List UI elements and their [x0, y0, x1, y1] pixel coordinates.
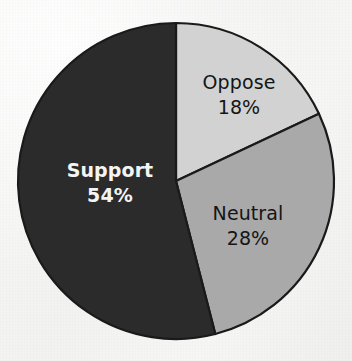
slice-label-oppose: Oppose: [203, 71, 276, 93]
slice-value-neutral: 28%: [227, 227, 270, 249]
pie-chart-svg: Oppose18%Neutral28%Support54%: [0, 0, 352, 361]
pie-slices-group: [18, 23, 334, 339]
slice-label-support: Support: [67, 159, 154, 181]
slice-label-neutral: Neutral: [213, 202, 284, 224]
pie-chart-figure: Oppose18%Neutral28%Support54%: [0, 0, 352, 361]
slice-value-oppose: 18%: [218, 96, 261, 118]
slice-value-support: 54%: [87, 184, 133, 206]
